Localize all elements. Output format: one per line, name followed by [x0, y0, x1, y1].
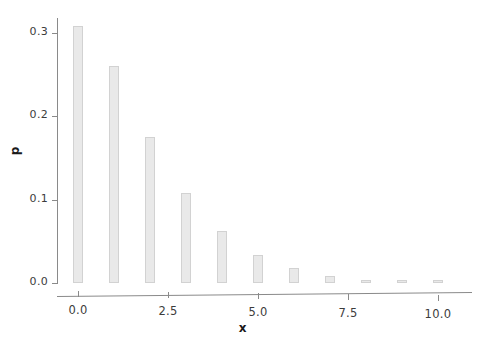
- bar: [145, 137, 155, 283]
- x-tick-mark: [258, 293, 259, 299]
- x-axis-spine: [57, 292, 472, 297]
- y-tick-label: 0.3: [30, 25, 48, 38]
- bar: [433, 280, 443, 283]
- bar: [397, 280, 407, 283]
- y-tick-label: 0.0: [30, 275, 48, 288]
- y-tick-label: 0.1: [30, 192, 48, 205]
- x-tick-label: 7.5: [338, 306, 357, 320]
- y-tick-mark: [52, 283, 57, 284]
- x-tick-mark: [348, 294, 349, 300]
- y-axis-label: p: [8, 147, 22, 156]
- bar: [325, 276, 335, 283]
- x-tick-mark: [438, 295, 439, 301]
- bar: [181, 193, 191, 283]
- x-axis-label: x: [0, 321, 485, 335]
- x-tick-mark: [168, 292, 169, 298]
- bar: [217, 231, 227, 283]
- x-tick-label: 5.0: [248, 305, 267, 319]
- x-tick-label: 2.5: [158, 304, 177, 318]
- x-tick-label: 10.0: [425, 307, 452, 321]
- x-tick-label: 0.0: [68, 303, 87, 317]
- y-tick-label: 0.2: [30, 108, 48, 121]
- x-tick-mark: [78, 291, 79, 297]
- bar: [253, 255, 263, 283]
- bar: [73, 26, 83, 283]
- chart-figure: 0.00.10.20.3 0.02.55.07.510.0 p x: [0, 0, 485, 349]
- plot-area: [57, 18, 452, 283]
- bar: [361, 280, 371, 283]
- bar: [289, 268, 299, 283]
- bar: [109, 66, 119, 283]
